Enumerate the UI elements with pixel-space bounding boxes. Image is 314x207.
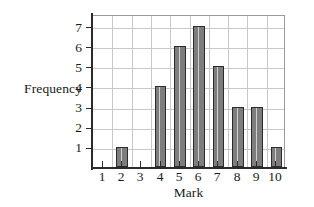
x-tick-mark (102, 161, 103, 168)
y-tick-label: 5 (62, 61, 82, 74)
y-tick-mark (86, 128, 92, 129)
y-axis-line (91, 13, 93, 170)
gridline-horizontal (93, 28, 284, 29)
bar (174, 46, 186, 167)
x-tick-mark (140, 161, 141, 168)
gridline-horizontal (93, 88, 284, 89)
y-tick-mark (86, 87, 92, 88)
y-tick-label: 6 (62, 41, 82, 54)
y-tick-label: 2 (62, 121, 82, 134)
gridline-vertical (112, 16, 113, 167)
y-tick-label: 4 (62, 81, 82, 94)
y-tick-mark (86, 27, 92, 28)
y-tick-label: 3 (62, 101, 82, 114)
y-tick-mark (86, 148, 92, 149)
gridline-vertical (267, 16, 268, 167)
bar (213, 66, 225, 167)
x-tick-mark (160, 161, 161, 168)
x-tick-mark (275, 161, 276, 168)
gridline-horizontal (93, 48, 284, 49)
gridline-vertical (132, 16, 133, 167)
bar-chart: Frequency 1234567 12345678910 Mark (0, 0, 314, 207)
gridline-horizontal (93, 68, 284, 69)
x-axis-title: Mark (92, 186, 285, 200)
bar (271, 147, 283, 167)
x-tick-mark (198, 161, 199, 168)
gridline-vertical (170, 16, 171, 167)
gridline-vertical (228, 16, 229, 167)
x-tick-label: 10 (263, 170, 287, 184)
y-tick-mark (86, 108, 92, 109)
bar (232, 107, 244, 167)
gridline-vertical (209, 16, 210, 167)
x-tick-mark (237, 161, 238, 168)
y-tick-mark (86, 47, 92, 48)
y-tick-mark (86, 67, 92, 68)
y-tick-label: 7 (62, 21, 82, 34)
gridline-vertical (151, 16, 152, 167)
gridline-vertical (190, 16, 191, 167)
x-tick-mark (256, 161, 257, 168)
bar (193, 26, 205, 167)
x-tick-mark (121, 161, 122, 168)
gridline-vertical (247, 16, 248, 167)
bar (155, 86, 167, 167)
y-tick-label: 1 (62, 141, 82, 154)
x-tick-mark (217, 161, 218, 168)
bar (251, 107, 263, 167)
plot-area (92, 15, 285, 168)
x-tick-mark (179, 161, 180, 168)
